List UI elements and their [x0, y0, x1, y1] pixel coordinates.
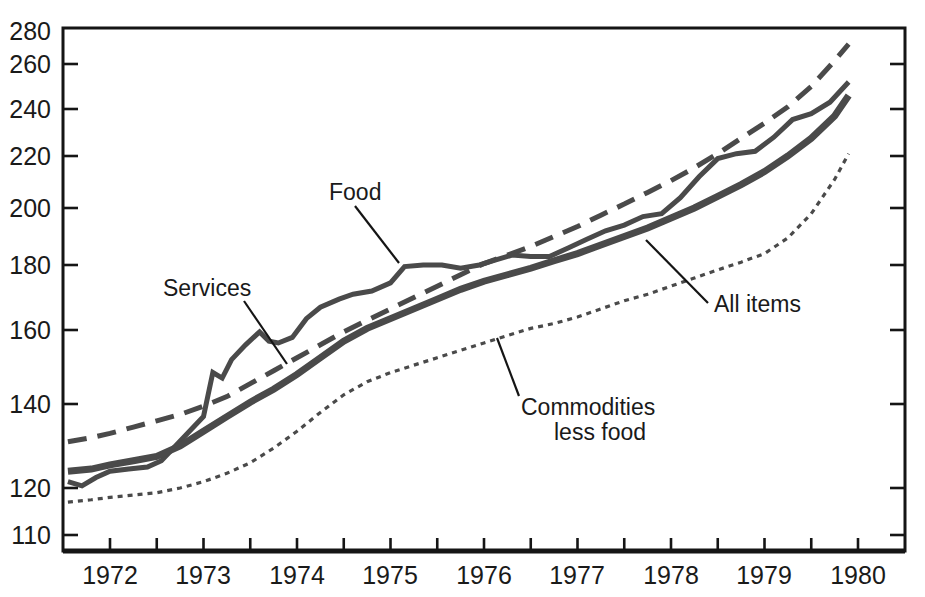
data-series-group: [68, 44, 849, 502]
series-label-commodities-less-food-line2: less food: [554, 419, 646, 445]
x-axis-label-1972: 1972: [82, 561, 138, 589]
y-axis-label-200: 200: [9, 194, 51, 222]
y-axis-label-140: 140: [9, 390, 51, 418]
y-axis-label-220: 220: [9, 142, 51, 170]
series-line-commodities-less-food: [68, 154, 849, 502]
x-axis-label-1973: 1973: [175, 561, 231, 589]
series-line-services: [68, 44, 849, 442]
y-axis-label-180: 180: [9, 251, 51, 279]
y-axis-label-280: 280: [9, 17, 51, 45]
leader-line-services: [244, 301, 287, 364]
x-axis-label-1976: 1976: [456, 561, 512, 589]
x-axis-label-1974: 1974: [269, 561, 325, 589]
y-axis-label-260: 260: [9, 50, 51, 78]
y-axis-label-160: 160: [9, 316, 51, 344]
x-axis-label-1975: 1975: [362, 561, 418, 589]
y-axis-label-110: 110: [11, 521, 51, 549]
series-label-commodities-less-food-line1: Commodities: [521, 394, 655, 420]
x-axis-label-1978: 1978: [643, 561, 699, 589]
chart-canvas: 280260240220200180160140120110 197219731…: [0, 0, 925, 597]
y-axis-label-120: 120: [9, 474, 51, 502]
series-label-food-line1: Food: [329, 179, 381, 205]
y-axis-tick-labels: 280260240220200180160140120110: [9, 17, 51, 549]
x-axis-tick-labels: 197219731974197519761977197819791980: [82, 561, 886, 589]
y-axis-label-240: 240: [9, 95, 51, 123]
leader-line-commodities-less-food: [497, 338, 519, 396]
cpi-line-chart: 280260240220200180160140120110 197219731…: [0, 0, 925, 597]
series-annotations: FoodServicesAll itemsCommoditiesless foo…: [163, 179, 801, 445]
x-axis-label-1980: 1980: [830, 561, 886, 589]
series-label-all-items-line1: All items: [714, 291, 801, 317]
series-label-services-line1: Services: [163, 275, 251, 301]
x-axis-label-1977: 1977: [549, 561, 605, 589]
leader-line-all-items: [646, 240, 708, 303]
leader-line-food: [355, 206, 399, 263]
x-axis-label-1979: 1979: [736, 561, 792, 589]
